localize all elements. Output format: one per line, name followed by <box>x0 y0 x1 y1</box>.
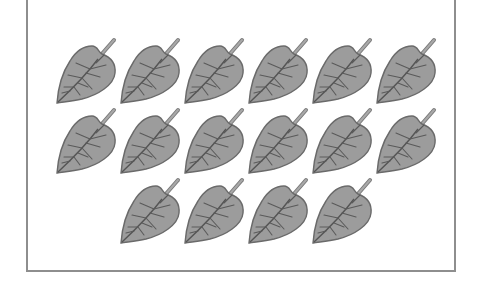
leaf-icon <box>310 107 374 175</box>
leaf-icon <box>118 37 182 105</box>
leaf-icon <box>54 37 118 105</box>
leaf-icon <box>374 37 438 105</box>
leaf-icon <box>118 177 182 245</box>
leaf-icon <box>374 107 438 175</box>
leaf-icon <box>182 37 246 105</box>
leaf-icon <box>118 107 182 175</box>
leaf-icon <box>246 107 310 175</box>
leaf-icon <box>310 37 374 105</box>
leaf-icon <box>246 37 310 105</box>
leaf-icon <box>54 107 118 175</box>
leaf-icon <box>182 107 246 175</box>
leaf-icon <box>182 177 246 245</box>
leaf-icon <box>310 177 374 245</box>
leaf-icon <box>246 177 310 245</box>
